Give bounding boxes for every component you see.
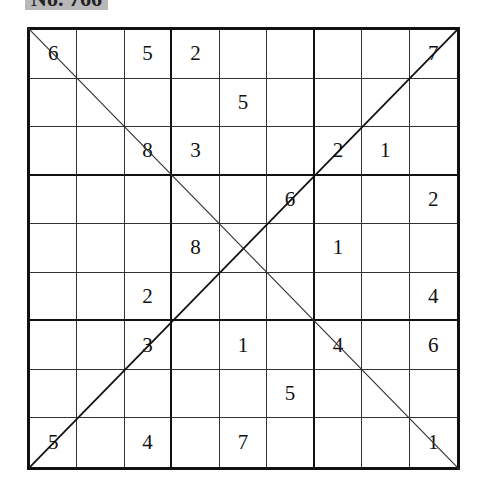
sudoku-board: 652758321628124314655471 (27, 27, 460, 470)
sudoku-cell-r3c4[interactable]: 3 (172, 127, 219, 176)
sudoku-cell-r6c4[interactable] (172, 273, 219, 322)
sudoku-cell-r7c5[interactable]: 1 (220, 321, 267, 370)
sudoku-cell-r7c1[interactable] (30, 321, 77, 370)
sudoku-cell-r4c6[interactable]: 6 (267, 176, 314, 225)
sudoku-cell-r3c1[interactable] (30, 127, 77, 176)
sudoku-cell-r7c8[interactable] (362, 321, 409, 370)
sudoku-cell-r9c8[interactable] (362, 418, 409, 467)
sudoku-cell-r8c2[interactable] (77, 370, 124, 419)
sudoku-cell-r9c4[interactable] (172, 418, 219, 467)
sudoku-cell-r8c3[interactable] (125, 370, 172, 419)
sudoku-cell-r5c3[interactable] (125, 224, 172, 273)
puzzle-number-label: No. 766 (25, 0, 108, 10)
sudoku-cell-r2c9[interactable] (410, 79, 457, 128)
sudoku-cell-r1c7[interactable] (315, 30, 362, 79)
sudoku-cell-r5c5[interactable] (220, 224, 267, 273)
sudoku-cell-r7c9[interactable]: 6 (410, 321, 457, 370)
sudoku-cell-r2c8[interactable] (362, 79, 409, 128)
sudoku-cell-r5c1[interactable] (30, 224, 77, 273)
sudoku-cell-r5c6[interactable] (267, 224, 314, 273)
sudoku-cell-r8c9[interactable] (410, 370, 457, 419)
sudoku-cell-r1c5[interactable] (220, 30, 267, 79)
sudoku-cell-r9c3[interactable]: 4 (125, 418, 172, 467)
sudoku-cell-r2c6[interactable] (267, 79, 314, 128)
sudoku-cell-r6c1[interactable] (30, 273, 77, 322)
sudoku-cell-r1c1[interactable]: 6 (30, 30, 77, 79)
sudoku-cell-r3c8[interactable]: 1 (362, 127, 409, 176)
sudoku-cell-r9c9[interactable]: 1 (410, 418, 457, 467)
sudoku-cell-r9c1[interactable]: 5 (30, 418, 77, 467)
sudoku-cell-r4c4[interactable] (172, 176, 219, 225)
sudoku-cell-r6c6[interactable] (267, 273, 314, 322)
sudoku-cell-r6c2[interactable] (77, 273, 124, 322)
sudoku-cell-r8c4[interactable] (172, 370, 219, 419)
sudoku-cell-r7c6[interactable] (267, 321, 314, 370)
sudoku-cell-r1c8[interactable] (362, 30, 409, 79)
sudoku-cell-r5c9[interactable] (410, 224, 457, 273)
sudoku-cell-r6c5[interactable] (220, 273, 267, 322)
sudoku-cell-r4c7[interactable] (315, 176, 362, 225)
sudoku-cell-r4c1[interactable] (30, 176, 77, 225)
sudoku-cell-r2c5[interactable]: 5 (220, 79, 267, 128)
sudoku-cell-r3c2[interactable] (77, 127, 124, 176)
sudoku-cell-r5c7[interactable]: 1 (315, 224, 362, 273)
sudoku-cell-r1c3[interactable]: 5 (125, 30, 172, 79)
sudoku-cell-r2c2[interactable] (77, 79, 124, 128)
sudoku-cell-r9c5[interactable]: 7 (220, 418, 267, 467)
sudoku-cell-r4c8[interactable] (362, 176, 409, 225)
sudoku-cell-r7c4[interactable] (172, 321, 219, 370)
sudoku-cell-r1c9[interactable]: 7 (410, 30, 457, 79)
sudoku-cell-r7c3[interactable]: 3 (125, 321, 172, 370)
sudoku-cell-r3c6[interactable] (267, 127, 314, 176)
sudoku-cell-r6c8[interactable] (362, 273, 409, 322)
sudoku-cell-r7c7[interactable]: 4 (315, 321, 362, 370)
sudoku-cell-r4c9[interactable]: 2 (410, 176, 457, 225)
sudoku-cell-r3c3[interactable]: 8 (125, 127, 172, 176)
sudoku-cell-r5c4[interactable]: 8 (172, 224, 219, 273)
sudoku-cell-r9c2[interactable] (77, 418, 124, 467)
sudoku-cell-r1c2[interactable] (77, 30, 124, 79)
sudoku-cell-r6c9[interactable]: 4 (410, 273, 457, 322)
sudoku-cell-r8c8[interactable] (362, 370, 409, 419)
sudoku-cell-r9c6[interactable] (267, 418, 314, 467)
sudoku-cell-r7c2[interactable] (77, 321, 124, 370)
sudoku-cell-r1c6[interactable] (267, 30, 314, 79)
sudoku-cell-r4c3[interactable] (125, 176, 172, 225)
sudoku-cell-r2c3[interactable] (125, 79, 172, 128)
sudoku-grid: 652758321628124314655471 (27, 27, 460, 470)
sudoku-cell-r5c8[interactable] (362, 224, 409, 273)
sudoku-cell-r9c7[interactable] (315, 418, 362, 467)
sudoku-cell-r6c7[interactable] (315, 273, 362, 322)
sudoku-cell-r2c4[interactable] (172, 79, 219, 128)
sudoku-cell-r8c1[interactable] (30, 370, 77, 419)
sudoku-cell-r4c5[interactable] (220, 176, 267, 225)
sudoku-cell-r4c2[interactable] (77, 176, 124, 225)
sudoku-cell-r5c2[interactable] (77, 224, 124, 273)
sudoku-cell-r3c5[interactable] (220, 127, 267, 176)
sudoku-cell-r8c6[interactable]: 5 (267, 370, 314, 419)
sudoku-cell-r1c4[interactable]: 2 (172, 30, 219, 79)
sudoku-cell-r8c5[interactable] (220, 370, 267, 419)
sudoku-cell-r8c7[interactable] (315, 370, 362, 419)
sudoku-cell-r3c7[interactable]: 2 (315, 127, 362, 176)
sudoku-cell-r2c7[interactable] (315, 79, 362, 128)
sudoku-cell-r2c1[interactable] (30, 79, 77, 128)
sudoku-cell-r3c9[interactable] (410, 127, 457, 176)
sudoku-cell-r6c3[interactable]: 2 (125, 273, 172, 322)
